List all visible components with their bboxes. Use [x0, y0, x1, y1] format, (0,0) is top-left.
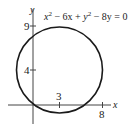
y-tick-label-4: 4: [24, 64, 30, 76]
equation-label: x2 − 6x + y2 − 8y = 0: [43, 10, 127, 22]
x-tick-label-3: 3: [56, 90, 62, 102]
y-tick-label-9: 9: [24, 20, 30, 32]
y-axis-label: y: [29, 4, 35, 15]
x-tick-label-8: 8: [99, 108, 105, 120]
x-axis-label: x: [112, 99, 118, 110]
circle-graph: y x 9 4 3 8 x2 − 6x + y2 − 8y = 0: [0, 0, 136, 128]
